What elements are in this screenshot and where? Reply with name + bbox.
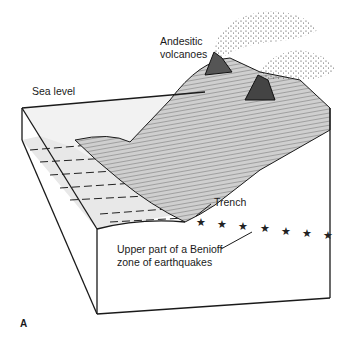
volcanoes-label: Andesitic volcanoes: [160, 35, 207, 61]
earthquake-star-icon: ★: [217, 218, 227, 230]
benioff-label-line2: zone of earthquakes: [117, 256, 222, 269]
earthquake-star-icon: ★: [281, 225, 291, 237]
volcanoes-label-line2: volcanoes: [160, 48, 207, 61]
earthquake-star-icon: ★: [302, 227, 312, 239]
earthquake-star-icon: ★: [196, 216, 206, 228]
subduction-block-diagram: ★ ★ ★ ★ ★ ★ ★ Andesitic volcanoes Sea le…: [0, 0, 351, 344]
benioff-leader-line: [221, 232, 252, 249]
benioff-zone-label: Upper part of a Benioff zone of earthqua…: [117, 243, 222, 269]
earthquake-star-icon: ★: [238, 220, 248, 232]
sea-level-label: Sea level: [32, 85, 75, 98]
ash-plume-2: [258, 50, 335, 80]
panel-label: A: [20, 318, 27, 329]
earthquake-star-icon: ★: [323, 229, 333, 241]
volcanoes-label-line1: Andesitic: [160, 35, 207, 48]
benioff-label-line1: Upper part of a Benioff: [117, 243, 222, 256]
trench-label: Trench: [214, 196, 246, 209]
earthquake-star-icon: ★: [260, 222, 270, 234]
benioff-earthquake-stars: ★ ★ ★ ★ ★ ★ ★: [196, 216, 333, 241]
